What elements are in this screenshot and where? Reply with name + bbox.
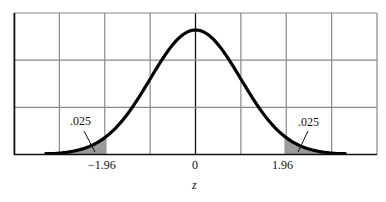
left-tail-label: .025 [70, 114, 91, 129]
tick-label-neg-1-96: −1.96 [88, 158, 116, 173]
right-tail-label: .025 [298, 115, 319, 130]
x-axis-label: z [192, 178, 197, 193]
grid [14, 13, 377, 155]
tick-label-0: 0 [192, 158, 198, 173]
tick-label-1-96: 1.96 [272, 158, 293, 173]
